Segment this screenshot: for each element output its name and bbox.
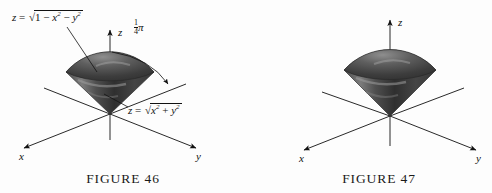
figure-46-z-axis-label: z <box>118 26 122 38</box>
figure-47-panel: z x y FIGURE 47 <box>246 0 492 193</box>
angle-numerator: 1 <box>134 19 138 27</box>
pi-symbol: π <box>138 21 144 33</box>
angle-denominator: 4 <box>134 27 138 36</box>
figure-pair-container: z = √1 − x2 − y2 z = √(1 − x² − y²) 14π … <box>0 0 492 193</box>
sphere-equation-label: z = √1 − x2 − y2 <box>12 10 83 23</box>
figure-47-solid <box>344 50 436 116</box>
figure-46-y-axis <box>110 114 196 148</box>
cone-equation-label: z = √x2 + y2 <box>128 103 182 116</box>
figure-46-panel: z = √1 − x2 − y2 z = √(1 − x² − y²) 14π … <box>0 0 246 193</box>
figure-47-caption: FIGURE 47 <box>246 171 492 187</box>
angle-label: 14π <box>134 20 144 38</box>
figure-46-x-axis <box>24 114 110 148</box>
figure-46-y-axis-label: y <box>196 150 201 162</box>
figure-46-caption: FIGURE 46 <box>0 171 264 187</box>
figure-46-x-axis-label: x <box>19 150 24 162</box>
figure-47-y-axis <box>390 116 476 150</box>
figure-47-x-axis-label: x <box>299 152 304 164</box>
figure-47-z-axis-label: z <box>398 16 402 28</box>
figure-46-drawing <box>0 0 246 193</box>
figure-47-x-axis <box>304 116 390 150</box>
figure-47-drawing <box>246 0 492 193</box>
figure-47-y-axis-label: y <box>476 152 481 164</box>
